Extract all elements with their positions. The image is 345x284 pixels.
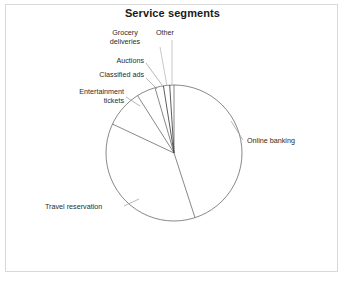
pie-label-other: Other [156,29,186,38]
leader-line-grocery-deliveries [160,47,167,86]
leader-line-classified-ads [146,78,157,89]
leader-line-auctions [146,63,162,85]
pie-label-travel-reservation: Travel reservation [45,203,102,212]
chart-figure: Service segments Online banking Travel r… [0,0,345,284]
pie-label-online-banking: Online banking [247,137,295,146]
pie-label-grocery-deliveries: Grocery deliveries [104,29,146,46]
pie-label-entertainment-tickets: Entertainment tickets [50,88,124,105]
pie-label-auctions: Auctions [96,57,144,66]
pie-label-classified-ads: Classified ads [78,71,144,80]
